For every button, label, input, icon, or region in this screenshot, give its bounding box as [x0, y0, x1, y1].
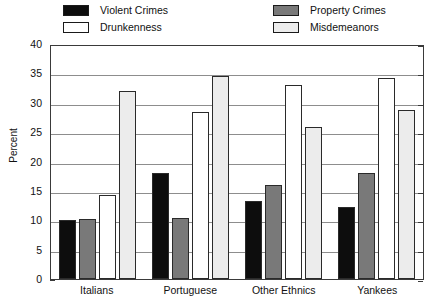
bar — [152, 173, 169, 279]
x-axis-tick-label: Other Ethnics — [237, 284, 331, 302]
bar — [212, 76, 229, 279]
bar — [172, 218, 189, 279]
x-axis-tick-label: Yankees — [331, 284, 425, 302]
bar — [265, 185, 282, 279]
legend-label-violent-crimes: Violent Crimes — [100, 5, 168, 16]
legend-item-drunkenness: Drunkenness — [63, 22, 162, 33]
bar — [338, 207, 355, 279]
bar — [99, 195, 116, 279]
bar-groups — [51, 46, 423, 279]
y-axis-tick-label: 15 — [8, 185, 42, 197]
legend-swatch-misdemeanors — [273, 22, 299, 33]
bar — [358, 173, 375, 279]
y-axis-tick-mark — [50, 280, 55, 281]
bar — [192, 112, 209, 279]
y-axis-tick-label: 0 — [8, 273, 42, 285]
bar — [285, 85, 302, 279]
bar-group — [237, 46, 330, 279]
bar-group — [330, 46, 423, 279]
bar-group — [51, 46, 144, 279]
y-axis-tick-label: 5 — [8, 244, 42, 256]
legend-swatch-violent-crimes — [63, 5, 89, 16]
x-axis-tick-labels: ItaliansPortugueseOther EthnicsYankees — [50, 284, 424, 302]
y-axis-tick-label: 40 — [8, 38, 42, 50]
legend-item-misdemeanors: Misdemeanors — [273, 22, 379, 33]
y-axis-title: Percent — [8, 111, 19, 181]
legend-swatch-property-crimes — [273, 5, 299, 16]
bar-chart: Violent Crimes Drunkenness Property Crim… — [0, 0, 432, 304]
y-axis-tick-label: 20 — [8, 156, 42, 168]
chart-legend: Violent Crimes Drunkenness Property Crim… — [0, 0, 432, 38]
legend-item-property-crimes: Property Crimes — [273, 5, 386, 16]
bar — [79, 219, 96, 279]
legend-label-property-crimes: Property Crimes — [310, 5, 386, 16]
bar-group — [144, 46, 237, 279]
y-axis-tick-label: 35 — [8, 67, 42, 79]
bar — [378, 78, 395, 279]
y-axis-tick-label: 10 — [8, 214, 42, 226]
bar — [245, 201, 262, 279]
plot-area — [50, 45, 424, 280]
bar — [59, 220, 76, 279]
legend-item-violent-crimes: Violent Crimes — [63, 5, 168, 16]
bar — [119, 91, 136, 279]
x-axis-tick-label: Italians — [50, 284, 144, 302]
y-axis-tick-mark — [418, 281, 423, 282]
x-axis-tick-label: Portuguese — [144, 284, 238, 302]
legend-swatch-drunkenness — [63, 22, 89, 33]
y-axis-tick-label: 30 — [8, 97, 42, 109]
y-axis-tick-label: 25 — [8, 126, 42, 138]
legend-label-misdemeanors: Misdemeanors — [310, 22, 379, 33]
bar — [398, 110, 415, 279]
bar — [305, 127, 322, 279]
legend-label-drunkenness: Drunkenness — [100, 22, 162, 33]
